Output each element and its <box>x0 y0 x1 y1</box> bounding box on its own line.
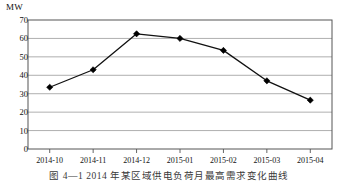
x-axis-tick-label: 2014-10 <box>36 156 63 165</box>
x-axis-tick-label: 2014-12 <box>123 156 150 165</box>
figure-container: MW 010203040506070 2014-102014-112014-12… <box>0 0 338 181</box>
x-axis-tick-label: 2015-03 <box>254 156 281 165</box>
data-point-marker <box>47 84 53 90</box>
y-axis-tick-labels: 010203040506070 <box>0 14 28 144</box>
data-point-marker <box>307 97 313 103</box>
line-chart-svg <box>0 14 338 154</box>
plot-area: 010203040506070 2014-102014-112014-12201… <box>0 14 338 154</box>
y-axis-tick-label: 10 <box>2 126 28 136</box>
x-axis-tick-label: 2015-04 <box>297 156 324 165</box>
y-axis-tick-label: 30 <box>2 89 28 99</box>
y-axis-tick-label: 70 <box>2 15 28 25</box>
x-axis-tick-label: 2014-11 <box>80 156 106 165</box>
x-axis-tick-label: 2015-02 <box>210 156 237 165</box>
data-point-marker <box>177 35 183 41</box>
y-axis-tick-label: 40 <box>2 70 28 80</box>
y-axis-tick-label: 0 <box>2 144 28 154</box>
x-axis-tick-label: 2015-01 <box>167 156 194 165</box>
y-axis-tick-label: 60 <box>2 33 28 43</box>
y-axis-unit-label: MW <box>6 2 23 12</box>
figure-caption: 图 4—1 2014 年某区域供电负荷月最高需求变化曲线 <box>0 168 338 181</box>
y-axis-tick-label: 50 <box>2 52 28 62</box>
y-axis-tick-label: 20 <box>2 107 28 117</box>
data-line <box>50 34 311 100</box>
